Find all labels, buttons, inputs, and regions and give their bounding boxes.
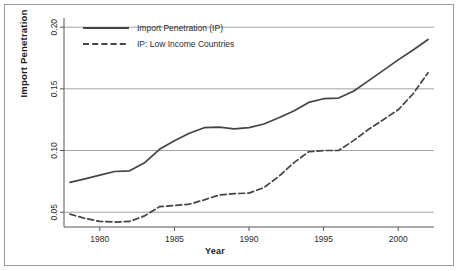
y-axis-label: Import Penetration <box>18 0 29 139</box>
y-tick-label-0: 0.05 <box>49 204 59 221</box>
x-tick-label-1: 1985 <box>165 234 184 244</box>
line-chart-canvas: 0.050.100.150.2019801985199019952000Impo… <box>0 0 460 271</box>
legend-label-1: IP: Low Income Countries <box>137 39 234 49</box>
y-tick-label-2: 0.15 <box>49 80 59 97</box>
x-tick-label-4: 2000 <box>389 234 408 244</box>
plot-wrapper: 0.050.100.150.2019801985199019952000Impo… <box>0 0 460 271</box>
x-tick-label-2: 1990 <box>240 234 259 244</box>
legend-label-0: Import Penetration (IP) <box>137 23 223 33</box>
chart-figure: 0.050.100.150.2019801985199019952000Impo… <box>0 0 460 271</box>
y-tick-label-3: 0.20 <box>49 19 59 36</box>
y-tick-label-1: 0.10 <box>49 142 59 159</box>
x-axis-label: Year <box>64 246 366 256</box>
x-tick-label-0: 1980 <box>90 234 109 244</box>
series-line-low-income-countries <box>70 73 428 222</box>
series-line-import-penetration <box>70 40 428 183</box>
x-tick-label-3: 1995 <box>314 234 333 244</box>
